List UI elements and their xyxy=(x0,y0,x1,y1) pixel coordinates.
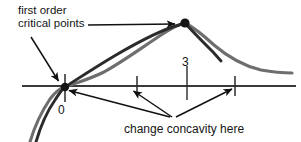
axis-label-zero: 0 xyxy=(58,103,65,117)
critical-point-dot-zero xyxy=(61,83,69,91)
label-change-concavity-here: change concavity here xyxy=(124,122,244,136)
label-critical-points: critical points xyxy=(18,17,84,31)
arrow-to-concavity-zero xyxy=(69,91,170,118)
arrow-to-origin-critical-point xyxy=(31,37,59,81)
arrow-to-concavity-right xyxy=(176,89,232,117)
axis-label-three: 3 xyxy=(182,55,189,69)
arrow-to-peak-critical-point xyxy=(88,24,175,25)
critical-point-dot-peak xyxy=(180,18,189,27)
label-first-order: first order xyxy=(18,4,67,18)
figure-container: first order critical points 0 3 change c… xyxy=(0,0,301,142)
